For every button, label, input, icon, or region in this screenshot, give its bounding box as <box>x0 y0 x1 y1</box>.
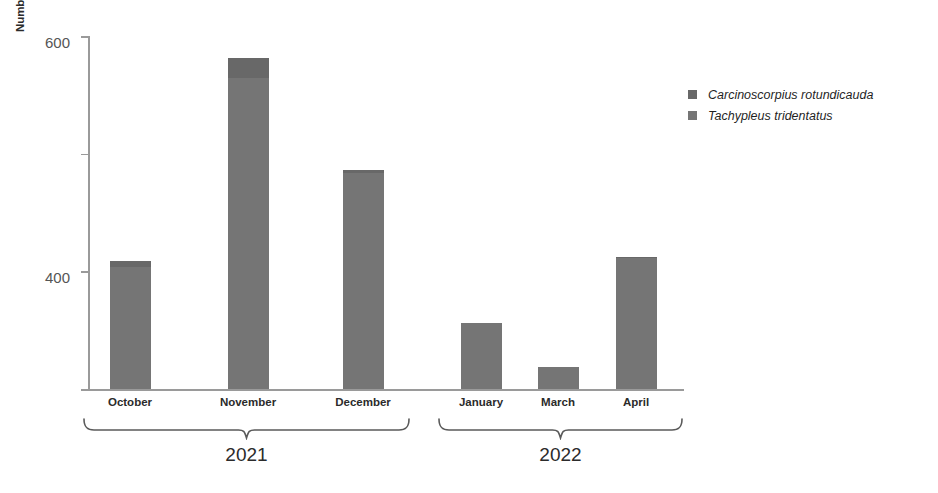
bar-segment-tachypleus <box>110 267 151 389</box>
y-tick-label: 600 <box>45 34 70 51</box>
month-label-november: November <box>193 396 303 408</box>
month-label-april: April <box>581 396 691 408</box>
bar-segment-tachypleus <box>343 173 384 389</box>
bar-segment-carcinoscorpius <box>228 58 269 79</box>
legend-item-1: Carcinoscorpius rotundicauda <box>688 84 938 105</box>
bar-january <box>461 323 502 389</box>
year-label-2021: 2021 <box>147 444 347 466</box>
y-tick-mark: 0 <box>81 389 88 391</box>
bar-segment-tachypleus <box>616 258 657 389</box>
legend-swatch-icon <box>688 111 697 120</box>
chart-legend: Carcinoscorpius rotundicaudaTachypleus t… <box>688 84 938 126</box>
bar-april <box>616 257 657 389</box>
month-label-october: October <box>75 396 185 408</box>
legend-label: Tachypleus tridentatus <box>708 109 833 123</box>
brace-2021 <box>82 418 411 440</box>
brace-2022 <box>437 418 684 440</box>
y-tick-mark: 200 <box>81 271 88 273</box>
bar-december <box>343 170 384 389</box>
plot-area: 0200400600 <box>88 30 684 390</box>
legend-item-2: Tachypleus tridentatus <box>688 105 938 126</box>
bar-october <box>110 261 151 389</box>
bar-segment-tachypleus <box>228 78 269 389</box>
legend-label: Carcinoscorpius rotundicauda <box>708 88 873 102</box>
bar-segment-tachypleus <box>461 323 502 389</box>
bar-segment-tachypleus <box>538 367 579 389</box>
y-tick-label: 400 <box>45 269 70 286</box>
legend-swatch-icon <box>688 90 697 99</box>
bar-march <box>538 367 579 389</box>
bar-chart: Number of bycaught individuals 020040060… <box>0 0 938 493</box>
bar-november <box>228 58 269 389</box>
y-tick-mark: 600 <box>81 36 88 38</box>
x-axis-line <box>88 389 684 391</box>
month-label-december: December <box>308 396 418 408</box>
year-label-2022: 2022 <box>461 444 661 466</box>
y-tick-mark: 400 <box>81 154 88 156</box>
y-axis-title: Number of bycaught individuals <box>14 0 36 32</box>
y-axis-line <box>88 36 90 390</box>
